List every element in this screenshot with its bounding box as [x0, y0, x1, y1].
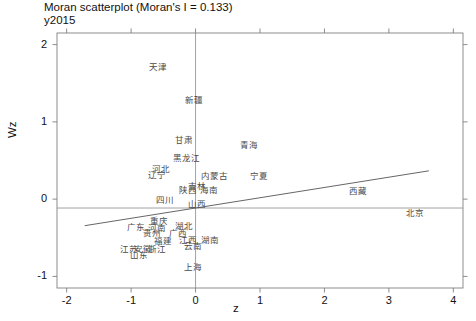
- x-tick-label: 1: [246, 294, 274, 306]
- y-tick-label: 1: [25, 115, 47, 127]
- reference-lines: [57, 33, 463, 288]
- data-point-label: 浙江: [148, 242, 166, 254]
- data-point-label: 云南: [184, 239, 202, 251]
- y-tick-label: 2: [25, 38, 47, 50]
- data-point-label: 辽宁: [148, 168, 166, 180]
- x-tick-label: -1: [117, 294, 145, 306]
- x-tick-label: 0: [182, 294, 210, 306]
- data-point-label: 北京: [406, 206, 424, 218]
- data-point-label: 宁夏: [250, 169, 268, 181]
- y-tick-label: -1: [25, 269, 47, 281]
- data-point-label: 上海: [184, 260, 202, 272]
- data-point-label: 甘肃: [175, 133, 193, 145]
- y-tick-label: 0: [25, 192, 47, 204]
- x-tick-label: 2: [310, 294, 338, 306]
- data-point-label: 西藏: [349, 184, 367, 196]
- x-tick-label: 4: [439, 294, 467, 306]
- data-point-label: 海南: [200, 183, 218, 195]
- tick-marks: [53, 29, 468, 293]
- plot-frame: [57, 33, 463, 288]
- moran-scatterplot: Moran scatterplot (Moran's I = 0.133) y2…: [0, 0, 476, 321]
- x-tick-label: 3: [375, 294, 403, 306]
- data-point-label: 山西: [188, 197, 206, 209]
- data-point-label: 四川: [156, 193, 174, 205]
- data-point-label: 黑龙江: [173, 151, 200, 163]
- data-point-label: 新疆: [185, 93, 203, 105]
- data-point-label: 青海: [240, 138, 258, 150]
- x-tick-label: -2: [53, 294, 81, 306]
- data-point-label: 湖南: [201, 233, 219, 245]
- data-point-label: 天津: [149, 60, 167, 72]
- data-point-label: 山东: [130, 248, 148, 260]
- plot-canvas: [0, 0, 476, 321]
